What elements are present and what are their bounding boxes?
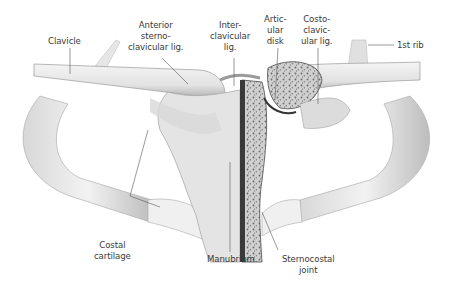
label-anterior-sternoclavicular-lig: Anterior sterno- clavicular lig. — [128, 20, 183, 53]
label-interclavicular-lig: Inter- clavicular lig. — [210, 20, 250, 53]
cortical-edge — [240, 80, 245, 262]
right-costal-cartilage — [262, 200, 302, 236]
label-articular-disk: Artic- ular disk — [264, 14, 286, 47]
label-manubrium: Manubrium — [207, 254, 255, 265]
interclavicular-ligament — [220, 75, 260, 80]
label-costoclavicular-lig: Costo- clavic- ular lig. — [301, 14, 332, 47]
label-sternocostal-joint: Sternocostal joint — [282, 254, 334, 276]
costoclavicular-ligament — [300, 98, 350, 128]
label-clavicle: Clavicle — [48, 36, 81, 47]
left-rib — [23, 96, 152, 222]
label-costal-cartilage: Costal cartilage — [94, 240, 131, 262]
left-clavicle — [34, 64, 225, 100]
label-first-rib: 1st rib — [397, 40, 424, 51]
